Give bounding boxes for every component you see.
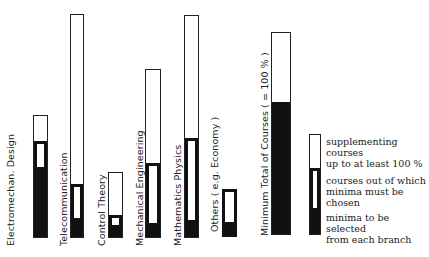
legend-item-choice: courses out of which minima must be chos… — [326, 175, 429, 208]
bar-segment-minima — [146, 223, 160, 237]
bar-label: Mechanical Engineering — [134, 130, 145, 246]
bar-segment-minima — [185, 220, 198, 237]
legend-line: up to at least 100 % — [326, 158, 429, 169]
bar-label: Control Theory — [96, 174, 107, 246]
legend-line: supplementing courses — [326, 136, 429, 158]
bar-label: Minimum Total of Courses ( = 100 % ) — [259, 52, 270, 236]
bar-minimum-total — [271, 32, 291, 235]
bar-mechanical-engineering — [145, 69, 161, 238]
bar-electromechan-design — [33, 115, 48, 238]
legend-swatch-minima — [310, 208, 320, 234]
bar-telecommunication — [70, 14, 84, 238]
bar-segment-minima — [71, 218, 83, 237]
legend-item-minima: minima to be selected from each branch — [326, 212, 429, 245]
legend-item-supplementing: supplementing courses up to at least 100… — [326, 136, 429, 169]
bar-mathematics-physics — [184, 15, 199, 238]
legend-line: minima to be selected — [326, 212, 429, 234]
bar-others — [222, 189, 237, 237]
legend-line: from each branch — [326, 234, 429, 245]
bar-label: Telecommunication — [58, 152, 69, 246]
bar-segment-minima — [222, 222, 237, 237]
legend-line: minima must be chosen — [326, 186, 429, 208]
bar-segment-minima — [34, 167, 47, 237]
bar-label: Electromechan. Design — [5, 134, 16, 246]
bar-segment-minima — [272, 102, 290, 234]
bar-label: Others ( e.g. Economy ) — [209, 117, 220, 232]
legend-line: courses out of which — [326, 175, 429, 186]
bar-control-theory — [108, 172, 123, 238]
bar-label: Mathematics Physics — [172, 145, 183, 246]
bar-segment-minima — [109, 225, 122, 237]
legend-swatch — [309, 134, 321, 235]
